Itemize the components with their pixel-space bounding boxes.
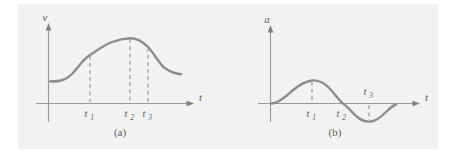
panel-b-tick-t3: t 3 (364, 86, 374, 100)
figure-root: v t t 1 t 2 t 3 (a) (0, 0, 454, 153)
panel-b-tick-t1-base: t (307, 108, 311, 119)
panel-b-group: a t t 1 t 2 t 3 (b) (258, 13, 429, 139)
panel-a-x-axis-arrow-icon (187, 101, 195, 107)
panel-b-caption: (b) (329, 126, 342, 139)
panel-a-tick-t3: t 3 (143, 108, 153, 122)
panel-b-tick-t2: t 2 (337, 108, 347, 122)
panel-a-tick-t3-base: t (143, 108, 147, 119)
panel-a-y-axis-label: v (43, 11, 48, 23)
panel-a-x-axis-label: t (199, 91, 203, 103)
panel-a-tick-t1-sub: 1 (90, 113, 94, 122)
panel-a-tick-t2: t 2 (125, 108, 135, 122)
panel-a-y-axis-arrow-icon (46, 23, 52, 31)
panel-b-y-axis-arrow-icon (268, 25, 274, 33)
panel-a-caption: (a) (114, 126, 127, 139)
panel-b-acceleration-curve (271, 80, 396, 121)
panel-a-tick-t2-sub: 2 (130, 113, 134, 122)
panel-b-tick-t2-base: t (337, 108, 341, 119)
panel-b-tick-t1-sub: 1 (312, 113, 316, 122)
panel-b-tick-t3-base: t (364, 86, 368, 97)
panel-b-tick-t2-sub: 2 (342, 113, 346, 122)
panel-a-tick-t1-base: t (85, 108, 89, 119)
panel-a-tick-t3-sub: 3 (147, 113, 152, 122)
panel-b-tick-t3-sub: 3 (368, 91, 373, 100)
panel-a-group: v t t 1 t 2 t 3 (a) (36, 11, 203, 139)
panel-b-x-axis-arrow-icon (413, 101, 421, 107)
panel-a-velocity-curve (50, 38, 181, 81)
panel-b-tick-t1: t 1 (307, 108, 316, 122)
panel-a-tick-t1: t 1 (85, 108, 94, 122)
panel-a-tick-t2-base: t (125, 108, 129, 119)
panel-b-x-axis-label: t (425, 91, 429, 103)
figure-svg: v t t 1 t 2 t 3 (a) (0, 0, 454, 153)
panel-b-y-axis-label: a (264, 13, 270, 25)
